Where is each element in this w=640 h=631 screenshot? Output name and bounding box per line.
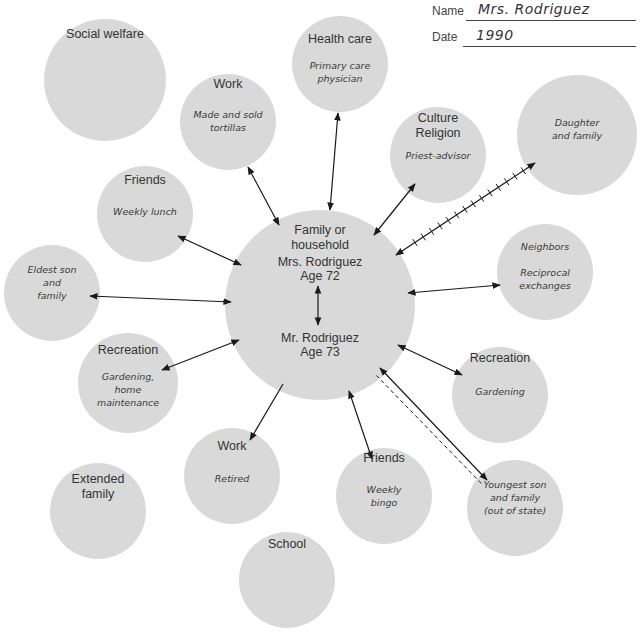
daughter-stress-tick xyxy=(413,239,417,246)
youngest-son-detail: and family xyxy=(490,492,541,503)
eldest-son-detail: and xyxy=(43,277,62,288)
recreation-gardening-title: Recreation xyxy=(470,351,530,365)
daughter-stress-tick xyxy=(454,212,458,219)
daughter-stress-tick xyxy=(521,167,525,174)
daughter-stress-tick xyxy=(513,173,517,180)
friends-bingo-detail: Weekly xyxy=(367,484,402,495)
neighbors-connection-arrow xyxy=(408,285,500,293)
work-tortillas-connection-arrow xyxy=(248,167,279,225)
culture-religion-connection-arrow xyxy=(374,184,415,235)
recreation-gardening-detail: Gardening xyxy=(475,386,525,397)
neighbors-detail: Reciprocal xyxy=(520,267,570,278)
recreation-home-connection-arrow xyxy=(162,340,239,370)
work-retired-detail: Retired xyxy=(215,473,251,484)
daughter-stress-tick xyxy=(421,234,425,241)
work-retired-connection-arrow xyxy=(250,384,283,440)
recreation-home-detail: Gardening, xyxy=(102,371,155,382)
culture-religion-detail: Priest-advisor xyxy=(405,150,471,161)
recreation-home-title: Recreation xyxy=(98,343,158,357)
eldest-son-connection-arrow xyxy=(90,296,231,302)
culture-religion-title: Religion xyxy=(415,126,460,140)
social-welfare-title: Social welfare xyxy=(66,27,144,41)
health-care-title: Health care xyxy=(308,32,372,46)
friends-lunch-title: Friends xyxy=(124,173,166,187)
mr-rodriguez-text: Age 73 xyxy=(300,345,340,359)
daughter-stress-tick xyxy=(488,189,492,196)
daughter-stress-tick xyxy=(438,223,442,230)
center-title-text: household xyxy=(291,238,349,252)
circles-layer xyxy=(4,16,637,628)
mrs-rodriguez-text: Mrs. Rodriguez xyxy=(278,255,363,269)
eldest-son-detail: family xyxy=(37,290,67,301)
mr-rodriguez-text: Mr. Rodriguez xyxy=(281,331,359,345)
ecomap-diagram: Family orhouseholdMrs. RodriguezAge 72Mr… xyxy=(0,0,640,631)
daughter-detail: Daughter xyxy=(555,117,601,128)
work-tortillas-detail: tortillas xyxy=(210,122,246,133)
friends-lunch-detail: Weekly lunch xyxy=(113,206,177,217)
daughter-stress-tick xyxy=(471,201,475,208)
friends-lunch-connection-arrow xyxy=(178,236,241,265)
work-tortillas-title: Work xyxy=(214,77,244,91)
neighbors-detail: exchanges xyxy=(519,280,570,291)
school-title: School xyxy=(268,537,306,551)
mrs-rodriguez-text: Age 72 xyxy=(300,269,340,283)
eldest-son-detail: Eldest son xyxy=(28,264,77,275)
daughter-stress-tick xyxy=(429,228,433,235)
center-title-text: Family or xyxy=(294,223,345,237)
recreation-gardening-connection-arrow xyxy=(398,345,462,375)
health-care-detail: physician xyxy=(317,73,363,84)
health-care-connection-arrow xyxy=(330,113,338,210)
extended-family-title: family xyxy=(82,487,115,501)
work-retired-title: Work xyxy=(218,439,248,453)
daughter-stress-tick xyxy=(504,178,508,185)
youngest-son-detail: Youngest son xyxy=(484,479,547,490)
neighbors-detail: Neighbors xyxy=(521,241,569,252)
daughter-stress-tick xyxy=(463,206,467,213)
daughter-stress-tick xyxy=(446,217,450,224)
extended-family-title: Extended xyxy=(72,472,125,486)
health-care-detail: Primary care xyxy=(310,60,371,71)
work-tortillas-detail: Made and sold xyxy=(193,109,263,120)
culture-religion-title: Culture xyxy=(418,111,458,125)
daughter-detail: and family xyxy=(552,130,603,141)
recreation-home-detail: home xyxy=(115,384,142,395)
friends-bingo-title: Friends xyxy=(363,451,405,465)
friends-bingo-detail: bingo xyxy=(371,497,398,508)
friends-bingo-connection-arrow xyxy=(349,391,372,459)
daughter-stress-tick xyxy=(496,184,500,191)
youngest-son-detail: (out of state) xyxy=(484,505,546,516)
daughter-stress-tick xyxy=(479,195,483,202)
recreation-home-detail: maintenance xyxy=(97,397,159,408)
